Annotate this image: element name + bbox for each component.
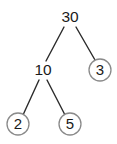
node-left-right-label: 5 (66, 115, 74, 132)
node-right: 3 (89, 59, 111, 81)
edge-root-to-left (46, 27, 64, 61)
binary-tree-diagram: 30 10 3 2 5 (0, 0, 117, 144)
node-left-label: 10 (34, 61, 52, 78)
node-left-right: 5 (59, 113, 81, 135)
edge-root-to-right (76, 27, 95, 60)
node-left: 10 (34, 61, 52, 78)
node-left-left-label: 2 (14, 115, 22, 132)
edge-left-to-left-right (47, 80, 65, 115)
node-root: 30 (61, 8, 79, 25)
tree-canvas: 30 10 3 2 5 (0, 0, 117, 144)
edge-left-to-left-left (23, 80, 39, 115)
node-root-label: 30 (61, 8, 79, 25)
node-left-left: 2 (7, 113, 29, 135)
node-right-label: 3 (96, 61, 104, 78)
